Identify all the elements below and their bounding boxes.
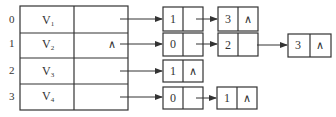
svg-text:0: 0 bbox=[170, 91, 176, 105]
vertex-label: V3 bbox=[42, 64, 55, 79]
index-label: 0 bbox=[9, 13, 15, 25]
index-label: 1 bbox=[9, 37, 15, 49]
vertex-label: V1 bbox=[42, 13, 55, 28]
null-pointer: ∧ bbox=[244, 13, 252, 25]
svg-text:1: 1 bbox=[224, 91, 230, 105]
index-label: 3 bbox=[9, 90, 15, 102]
adjacency-list-diagram: 0 V1 1 V2 ∧ 2 V3 3 V4 bbox=[0, 0, 336, 117]
edge-node-labels: 1 3 ∧ 0 2 3 ∧ 1 ∧ 0 1 ∧ bbox=[170, 12, 324, 105]
null-pointer: ∧ bbox=[108, 38, 116, 50]
vertex-row-1: 1 V2 ∧ bbox=[9, 37, 162, 52]
vertex-label: V2 bbox=[42, 37, 55, 52]
svg-text:1: 1 bbox=[170, 64, 176, 78]
vertex-row-2: 2 V3 bbox=[9, 64, 162, 79]
svg-text:0: 0 bbox=[170, 37, 176, 51]
svg-text:2: 2 bbox=[225, 38, 231, 52]
null-pointer: ∧ bbox=[316, 39, 324, 51]
svg-text:1: 1 bbox=[170, 12, 176, 26]
vertex-row-0: 0 V1 bbox=[9, 13, 162, 28]
vertex-label: V4 bbox=[42, 89, 55, 104]
vertex-row-3: 3 V4 bbox=[9, 89, 162, 104]
null-pointer: ∧ bbox=[243, 92, 251, 104]
svg-text:3: 3 bbox=[225, 12, 231, 26]
svg-text:3: 3 bbox=[295, 38, 301, 52]
vertex-table bbox=[20, 6, 128, 110]
index-label: 2 bbox=[9, 64, 15, 76]
null-pointer: ∧ bbox=[189, 65, 197, 77]
